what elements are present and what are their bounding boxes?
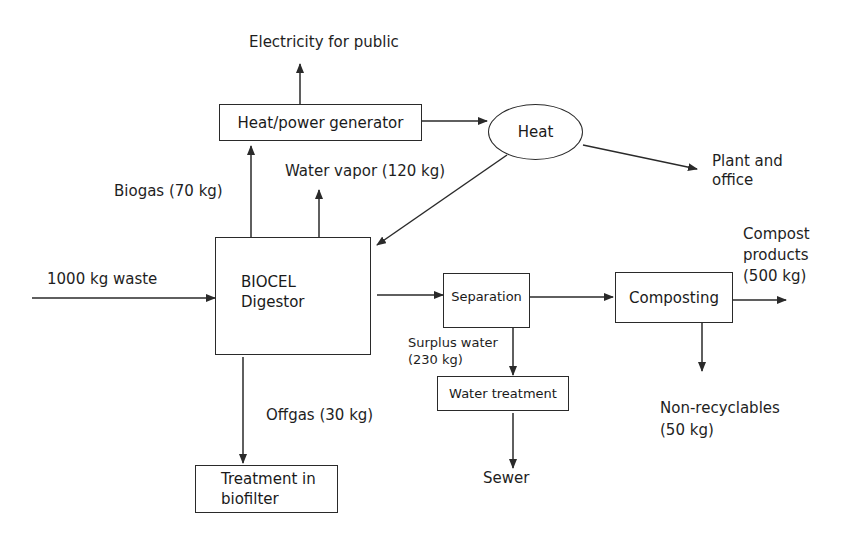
digestor-label-line1: BIOCEL <box>241 272 305 292</box>
waste-input-label: 1000 kg waste <box>47 270 157 289</box>
heat-label: Heat <box>518 123 554 141</box>
compost-line3: (500 kg) <box>743 266 810 287</box>
water-treatment-box: Water treatment <box>437 376 569 411</box>
plant-office-label: Plant and office <box>712 152 783 190</box>
biogas-label: Biogas (70 kg) <box>114 182 223 201</box>
heat-power-generator-label: Heat/power generator <box>238 114 404 132</box>
plant-office-line2: office <box>712 171 783 190</box>
nonrecyclables-label: Non-recyclables (50 kg) <box>660 397 780 441</box>
digestor-label-line2: Digestor <box>241 292 305 312</box>
compost-line1: Compost <box>743 224 810 245</box>
water-treatment-label: Water treatment <box>449 386 557 401</box>
biofilter-label-line1: Treatment in <box>221 469 316 489</box>
separation-label: Separation <box>451 289 522 304</box>
nonrecyclables-line2: (50 kg) <box>660 419 780 441</box>
sewer-label: Sewer <box>483 469 529 488</box>
separation-box: Separation <box>443 273 530 328</box>
heat-power-generator-box: Heat/power generator <box>219 104 422 141</box>
heat-node: Heat <box>488 104 583 160</box>
composting-box: Composting <box>615 272 733 323</box>
biofilter-box: Treatment in biofilter <box>195 465 338 513</box>
compost-products-label: Compost products (500 kg) <box>743 224 810 287</box>
biocel-digestor-box: BIOCEL Digestor <box>215 237 371 355</box>
water-vapor-label: Water vapor (120 kg) <box>285 162 445 181</box>
nonrecyclables-line1: Non-recyclables <box>660 397 780 419</box>
offgas-label: Offgas (30 kg) <box>266 406 373 425</box>
composting-label: Composting <box>629 289 719 307</box>
surplus-water-line2: (230 kg) <box>408 351 498 368</box>
electricity-label: Electricity for public <box>249 33 399 52</box>
arrow-heat-to-plant <box>583 145 697 169</box>
compost-line2: products <box>743 245 810 266</box>
surplus-water-label: Surplus water (230 kg) <box>408 334 498 368</box>
biofilter-label-line2: biofilter <box>221 489 316 509</box>
surplus-water-line1: Surplus water <box>408 334 498 351</box>
plant-office-line1: Plant and <box>712 152 783 171</box>
